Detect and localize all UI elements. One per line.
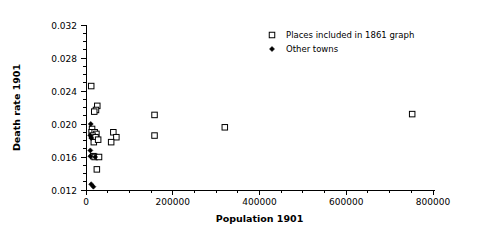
data-point: [409, 111, 415, 117]
y-tick-label: 0.012: [51, 186, 77, 196]
chart-legend: Places included in 1861 graphOther towns: [269, 30, 414, 54]
data-point: [222, 125, 228, 131]
series-open-square: [88, 83, 414, 172]
y-tick-label: 0.024: [51, 87, 77, 97]
axes-layer: [86, 25, 435, 190]
x-tick-label: 200000: [156, 197, 191, 207]
scatter-chart: 02000004000006000008000000.0120.0160.020…: [0, 0, 488, 241]
x-axis-title: Population 1901: [216, 213, 304, 224]
x-tick-label: 800000: [416, 197, 451, 207]
data-point: [91, 109, 97, 115]
data-point: [95, 137, 101, 143]
legend-marker: [270, 47, 275, 52]
data-point: [88, 83, 94, 89]
y-tick-label: 0.020: [51, 120, 77, 130]
data-points: [88, 83, 415, 189]
x-tick-label: 0: [83, 197, 89, 207]
data-point: [152, 133, 158, 139]
legend-label: Other towns: [286, 44, 339, 54]
y-tick-label: 0.028: [51, 54, 77, 64]
y-tick-label: 0.016: [51, 153, 77, 163]
data-point: [94, 167, 100, 173]
x-tick-label: 400000: [242, 197, 277, 207]
x-tick-label: 600000: [329, 197, 364, 207]
legend-label: Places included in 1861 graph: [286, 30, 414, 40]
axis-tick-labels: 02000004000006000008000000.0120.0160.020…: [51, 21, 450, 208]
data-point: [88, 148, 93, 153]
y-axis-title: Death rate 1901: [11, 64, 22, 151]
legend-marker: [269, 32, 275, 38]
y-tick-label: 0.032: [51, 21, 77, 31]
data-point: [108, 139, 114, 145]
data-point: [152, 112, 158, 118]
data-point: [114, 134, 120, 140]
plot-area: 02000004000006000008000000.0120.0160.020…: [0, 0, 488, 241]
axis-ticks: [81, 25, 433, 195]
